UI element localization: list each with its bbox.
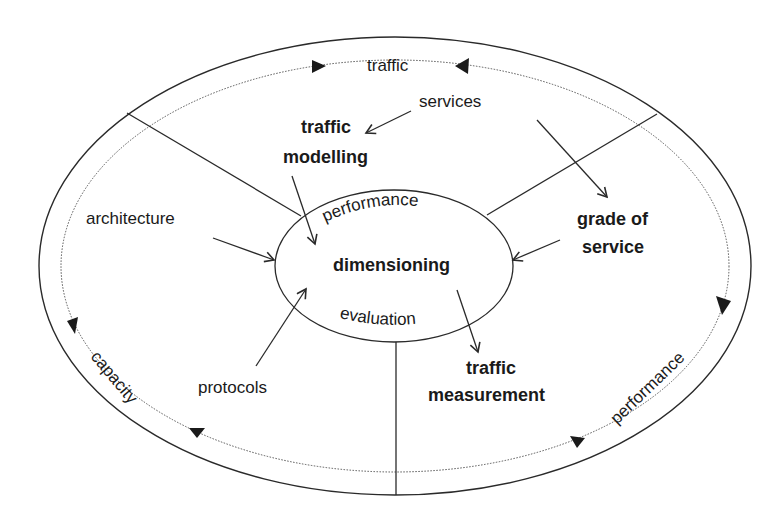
ring-label-traffic: traffic bbox=[367, 56, 409, 75]
arrow-services-to-modelling bbox=[366, 111, 411, 133]
node-traffic-measurement-line2: measurement bbox=[428, 385, 545, 405]
arrow-grade-to-center bbox=[513, 240, 560, 260]
traffic-dimensioning-diagram: traffic capacity performance performance… bbox=[0, 0, 783, 525]
arrowhead-bottom-left-icon bbox=[189, 428, 205, 438]
node-protocols: protocols bbox=[198, 378, 267, 397]
divider-left bbox=[127, 113, 301, 216]
node-traffic-modelling-line1: traffic bbox=[301, 117, 351, 137]
arrowhead-top-left-icon bbox=[312, 60, 326, 73]
node-services: services bbox=[419, 92, 481, 111]
node-traffic-measurement-line1: traffic bbox=[466, 358, 516, 378]
inner-label-dimensioning: dimensioning bbox=[333, 255, 450, 275]
node-grade-of-service-line2: service bbox=[582, 237, 644, 257]
node-architecture: architecture bbox=[86, 209, 175, 228]
node-traffic-modelling-line2: modelling bbox=[283, 147, 368, 167]
arrowhead-bottom-right-icon bbox=[570, 436, 585, 448]
divider-right bbox=[487, 114, 657, 215]
arrow-architecture-to-center bbox=[213, 238, 274, 260]
arrow-services-to-grade bbox=[537, 120, 607, 197]
arrow-protocols-to-center bbox=[256, 289, 306, 366]
ring-label-performance: performance bbox=[607, 348, 689, 428]
arrowhead-left-icon bbox=[67, 317, 78, 334]
arrowhead-top-right-icon bbox=[455, 58, 469, 74]
node-grade-of-service-line1: grade of bbox=[577, 209, 649, 229]
arrowhead-right-icon bbox=[716, 296, 731, 315]
ring-label-capacity: capacity bbox=[87, 347, 142, 407]
